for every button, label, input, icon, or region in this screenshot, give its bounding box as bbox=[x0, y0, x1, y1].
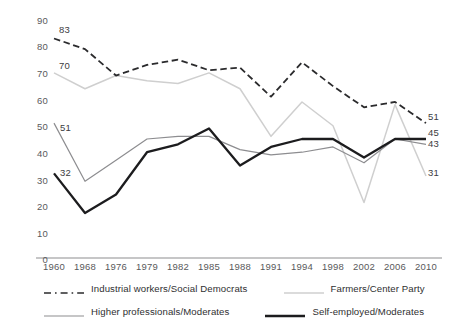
legend-row-2: Higher professionals/Moderates Self-empl… bbox=[44, 306, 424, 317]
series-line-1 bbox=[54, 73, 426, 203]
legend-swatch-dashed-icon bbox=[44, 284, 84, 294]
x-tick-1968: 1968 bbox=[68, 261, 102, 272]
y-tick-60: 60 bbox=[22, 96, 48, 106]
series-line-3 bbox=[54, 128, 426, 213]
legend-swatch-selfemployed-icon bbox=[265, 307, 305, 317]
series-line-2 bbox=[54, 123, 426, 181]
y-tick-40: 40 bbox=[22, 149, 48, 159]
x-tick-1960: 1960 bbox=[37, 261, 71, 272]
y-tick-80: 80 bbox=[22, 42, 48, 52]
x-tick-1988: 1988 bbox=[223, 261, 257, 272]
line-chart: 90 80 70 60 50 40 30 20 10 0 1960 1968 1… bbox=[0, 0, 459, 329]
legend-swatch-professionals-icon bbox=[44, 307, 84, 317]
label-professionals-end: 43 bbox=[428, 139, 439, 149]
x-tick-1976: 1976 bbox=[99, 261, 133, 272]
label-farmers-end: 31 bbox=[428, 168, 439, 178]
x-tick-1985: 1985 bbox=[192, 261, 226, 272]
legend-item-farmers[interactable]: Farmers/Center Party bbox=[284, 283, 425, 294]
y-tick-90: 90 bbox=[22, 16, 48, 26]
x-tick-1994: 1994 bbox=[285, 261, 319, 272]
x-tick-2006: 2006 bbox=[378, 261, 412, 272]
legend-label-higher-professionals: Higher professionals/Moderates bbox=[91, 306, 229, 317]
legend-item-industrial-workers[interactable]: Industrial workers/Social Democrats bbox=[44, 283, 248, 294]
label-selfemployed-start: 32 bbox=[60, 168, 71, 178]
label-farmers-start: 70 bbox=[59, 61, 70, 71]
plot-area bbox=[0, 0, 459, 280]
legend-swatch-farmers-icon bbox=[284, 284, 324, 294]
y-tick-10: 10 bbox=[22, 229, 48, 239]
y-tick-20: 20 bbox=[22, 202, 48, 212]
legend-label-farmers: Farmers/Center Party bbox=[331, 283, 425, 294]
chart-canvas bbox=[0, 0, 459, 280]
legend-label-industrial-workers: Industrial workers/Social Democrats bbox=[91, 283, 248, 294]
legend-label-self-employed: Self-employed/Moderates bbox=[312, 306, 424, 317]
y-tick-70: 70 bbox=[22, 69, 48, 79]
legend-item-self-employed[interactable]: Self-employed/Moderates bbox=[265, 306, 424, 317]
series-line-0 bbox=[54, 39, 426, 124]
legend-item-higher-professionals[interactable]: Higher professionals/Moderates bbox=[44, 306, 229, 317]
chart-legend: Industrial workers/Social Democrats Farm… bbox=[0, 283, 459, 329]
y-tick-50: 50 bbox=[22, 122, 48, 132]
x-tick-1998: 1998 bbox=[316, 261, 350, 272]
x-tick-1982: 1982 bbox=[161, 261, 195, 272]
legend-row-1: Industrial workers/Social Democrats Farm… bbox=[44, 283, 425, 294]
x-tick-1991: 1991 bbox=[254, 261, 288, 272]
label-industrial-end: 51 bbox=[428, 112, 439, 122]
x-tick-2002: 2002 bbox=[347, 261, 381, 272]
label-professionals-start: 51 bbox=[60, 123, 71, 133]
label-selfemployed-end: 45 bbox=[428, 128, 439, 138]
y-tick-30: 30 bbox=[22, 176, 48, 186]
x-tick-1979: 1979 bbox=[130, 261, 164, 272]
label-industrial-start: 83 bbox=[59, 25, 70, 35]
x-tick-2010: 2010 bbox=[409, 261, 443, 272]
